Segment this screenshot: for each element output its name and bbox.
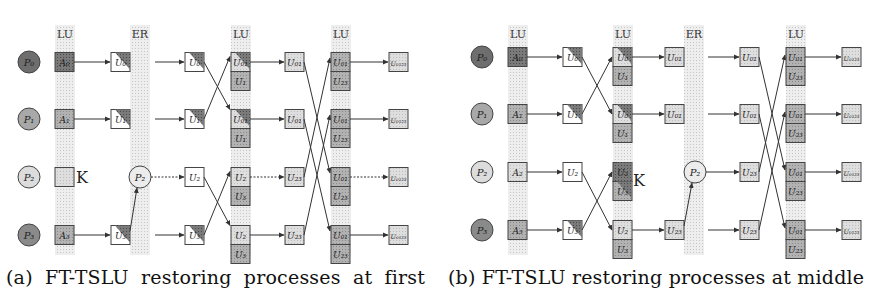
svg-text:P₁: P₁ xyxy=(23,114,35,125)
u-block-a-s4-2: U₂₃ xyxy=(285,168,304,187)
caption-b: (b) FT-TSLU restoring processes at middl… xyxy=(448,266,864,288)
process-p3: P₃ xyxy=(18,224,40,246)
u-block-a-s3-bot-1: U₁ xyxy=(231,129,250,148)
svg-text:U₀₁₂₃: U₀₁₂₃ xyxy=(844,112,860,120)
svg-text:U₂₃: U₂₃ xyxy=(333,250,348,260)
svg-text:LU: LU xyxy=(788,28,804,41)
svg-text:U₀₁: U₀₁ xyxy=(233,115,248,125)
initial-block-b3: A₃ xyxy=(508,221,527,240)
arrow xyxy=(204,62,230,110)
u-block-b-s4-3: U₂₃ xyxy=(740,221,759,240)
svg-text:P₃: P₃ xyxy=(476,225,488,236)
output-block-a-0: U₀₁₂₃ xyxy=(389,53,408,72)
svg-text:U₀₁₂₃: U₀₁₂₃ xyxy=(844,170,860,178)
svg-text:U₂: U₂ xyxy=(617,168,629,178)
u-block-b-s5-bot-3: U₂₃ xyxy=(786,240,805,259)
u-block-a-s1-1: U₁ xyxy=(111,110,130,129)
svg-text:U₂: U₂ xyxy=(567,168,579,178)
u-block-b-s1-3: U₃ xyxy=(563,221,582,240)
svg-text:U₀₁: U₀₁ xyxy=(333,115,348,125)
svg-text:U₀: U₀ xyxy=(567,53,579,63)
arrow xyxy=(204,172,230,236)
u-block-b-s4-2: U₂₃ xyxy=(740,163,759,182)
process-p2: P₂ xyxy=(471,161,493,183)
arrow xyxy=(204,57,230,120)
svg-text:U₂₃: U₂₃ xyxy=(742,168,757,178)
svg-text:U₀: U₀ xyxy=(617,110,629,120)
failure-marker: K xyxy=(76,168,89,187)
svg-text:U₀₁₂₃: U₀₁₂₃ xyxy=(844,228,860,236)
u-block-a-s5-top-1: U₀₁ xyxy=(331,110,350,129)
u-block-a-s3-top-2: U₂ xyxy=(231,168,250,187)
caption-a: (a) FT-TSLU restoring processes at first xyxy=(6,266,425,288)
u-block-a-s3-bot-0: U₁ xyxy=(231,72,250,91)
svg-text:U₀: U₀ xyxy=(617,53,629,63)
svg-text:U₂₃: U₂₃ xyxy=(667,226,682,236)
svg-text:P₀: P₀ xyxy=(23,57,35,68)
u-block-b-s4-0: U₀₁ xyxy=(740,48,759,67)
arrow xyxy=(304,58,330,177)
svg-text:P₂: P₂ xyxy=(134,172,146,183)
initial-block-a0: A₀ xyxy=(55,53,74,72)
svg-text:U₀₁: U₀₁ xyxy=(742,53,757,63)
svg-text:U₀: U₀ xyxy=(115,58,127,68)
initial-block-a1: A₁ xyxy=(55,110,74,129)
band-er-2: ER xyxy=(684,25,704,255)
svg-text:U₃: U₃ xyxy=(567,226,579,236)
svg-text:U₀: U₀ xyxy=(189,58,201,68)
svg-text:U₀₁₂₃: U₀₁₂₃ xyxy=(391,233,407,241)
u-block-b-s2-top-0: U₀ xyxy=(613,48,632,67)
svg-text:U₀₁: U₀₁ xyxy=(788,53,803,63)
svg-text:U₂₃: U₂₃ xyxy=(788,129,803,139)
u-block-a-s3-top-0: U₀₁ xyxy=(231,53,250,72)
output-block-a-2: U₀₁₂₃ xyxy=(389,168,408,187)
u-block-b-s5-bot-0: U₂₃ xyxy=(786,67,805,86)
svg-text:U₁: U₁ xyxy=(235,77,246,87)
u-block-b-s1-2: U₂ xyxy=(563,163,582,182)
svg-text:P₁: P₁ xyxy=(476,109,488,120)
svg-text:U₀₁₂₃: U₀₁₂₃ xyxy=(844,55,860,63)
u-block-a-s5-bot-1: U₂₃ xyxy=(331,129,350,148)
svg-text:U₁: U₁ xyxy=(567,110,578,120)
process-p1: P₁ xyxy=(471,103,493,125)
svg-text:ER: ER xyxy=(132,28,149,41)
fault-tolerant-tslu-diagram: LUERLULUP₀A₀P₁A₁P₂P₃A₃KU₀U₁U₃P₂U₀U₁U₂U₃U… xyxy=(0,0,881,297)
svg-text:U₂₃: U₂₃ xyxy=(333,77,348,87)
u-block-a-s2-3: U₃ xyxy=(185,226,204,245)
svg-text:P₂: P₂ xyxy=(689,167,701,178)
svg-text:U₂₃: U₂₃ xyxy=(788,72,803,82)
svg-text:U₁: U₁ xyxy=(189,115,200,125)
u-block-a-s5-bot-3: U₂₃ xyxy=(331,245,350,264)
svg-text:U₀₁: U₀₁ xyxy=(333,231,348,241)
output-block-b-3: U₀₁₂₃ xyxy=(842,221,861,240)
svg-text:U₀₁: U₀₁ xyxy=(287,58,302,68)
u-block-b-s2-top-3: U₂ xyxy=(613,221,632,240)
u-block-b-s1-1: U₁ xyxy=(563,105,582,124)
svg-text:U₂: U₂ xyxy=(189,173,201,183)
svg-text:U₂₃: U₂₃ xyxy=(788,245,803,255)
svg-text:LU: LU xyxy=(510,28,526,41)
svg-text:U₀₁: U₀₁ xyxy=(333,173,348,183)
u-block-a-s3-top-1: U₀₁ xyxy=(231,110,250,129)
svg-text:U₂: U₂ xyxy=(235,231,247,241)
svg-text:U₂₃: U₂₃ xyxy=(287,173,302,183)
svg-text:U₃: U₃ xyxy=(189,231,201,241)
svg-text:U₀₁: U₀₁ xyxy=(287,115,302,125)
svg-text:U₀₁: U₀₁ xyxy=(788,226,803,236)
u-block-a-s4-0: U₀₁ xyxy=(285,53,304,72)
svg-text:U₀₁: U₀₁ xyxy=(667,53,682,63)
output-block-b-0: U₀₁₂₃ xyxy=(842,48,861,67)
u-block-a-s3-bot-2: U₃ xyxy=(231,187,250,206)
svg-text:U₃: U₃ xyxy=(115,231,127,241)
initial-block-b1: A₁ xyxy=(508,105,527,124)
restored-process-p2: P₂ xyxy=(684,161,706,183)
svg-text:U₂₃: U₂₃ xyxy=(333,134,348,144)
u-block-a-s5-top-3: U₀₁ xyxy=(331,226,350,245)
u-block-a-s5-bot-0: U₂₃ xyxy=(331,72,350,91)
u-block-b-s2-bot-1: U₁ xyxy=(613,124,632,143)
u-block-a-s3-top-3: U₂ xyxy=(231,226,250,245)
initial-block-a2 xyxy=(55,168,74,187)
u-block-a-s1-0: U₀ xyxy=(111,53,130,72)
svg-text:ER: ER xyxy=(686,28,703,41)
u-block-b-s3-0: U₀₁ xyxy=(665,48,684,67)
